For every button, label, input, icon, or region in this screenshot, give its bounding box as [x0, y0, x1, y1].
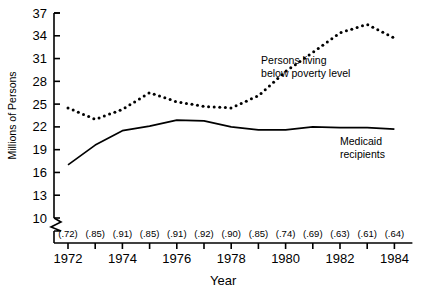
poverty-data-dot — [340, 31, 343, 34]
poverty-data-dot — [87, 115, 90, 118]
poverty-data-dot — [312, 50, 315, 53]
y-axis-tick-label: 13 — [33, 188, 47, 203]
poverty-data-dot — [103, 114, 106, 117]
poverty-data-dot — [138, 97, 141, 100]
x-axis-title: Year — [210, 273, 237, 288]
poverty-data-dot — [92, 117, 95, 120]
x-axis-ratio-label: (.85) — [249, 228, 269, 239]
x-axis-year-label: 1982 — [326, 251, 355, 266]
y-axis-tick-label: 34 — [33, 28, 47, 43]
y-axis-tick-label: 25 — [33, 97, 47, 112]
poverty-data-dot — [196, 104, 199, 107]
x-axis-year-label: 1978 — [217, 251, 246, 266]
poverty-data-dot — [356, 26, 359, 29]
poverty-data-dot — [381, 31, 384, 34]
poverty-data-dot — [321, 44, 324, 47]
y-axis-tick-label: 22 — [33, 119, 47, 134]
poverty-data-dot — [229, 106, 232, 109]
x-axis-ratio-label: (.69) — [303, 228, 323, 239]
poverty-data-dot — [113, 111, 116, 114]
y-axis-tick-label: 19 — [33, 142, 47, 157]
poverty-data-dot — [345, 29, 348, 32]
x-axis-ratio-label: (.91) — [167, 228, 187, 239]
poverty-data-dot — [335, 34, 338, 37]
x-axis-ratio-label: (.74) — [276, 228, 296, 239]
poverty-series-label-line1: Persons living — [261, 54, 327, 66]
x-axis-year-label: 1972 — [54, 251, 83, 266]
poverty-data-dot — [133, 100, 136, 103]
poverty-data-dot — [163, 96, 166, 99]
poverty-data-dot — [268, 84, 271, 87]
x-axis-ratio-label: (.72) — [58, 228, 78, 239]
poverty-data-dot — [128, 103, 131, 106]
poverty-data-dot — [264, 88, 267, 91]
poverty-data-dot — [158, 95, 161, 98]
poverty-data-dot — [361, 24, 364, 27]
poverty-data-dot — [371, 26, 374, 29]
poverty-data-dot — [119, 109, 122, 112]
poverty-data-dot — [72, 109, 75, 112]
poverty-data-dot — [330, 37, 333, 40]
y-axis-tick-label: 31 — [33, 51, 47, 66]
poverty-data-dot — [185, 102, 188, 105]
medicaid-series-label-line2: recipients — [340, 148, 385, 160]
x-axis-ratio-label: (.85) — [85, 228, 105, 239]
poverty-data-dot — [143, 95, 146, 98]
poverty-data-dot — [169, 98, 172, 101]
y-axis-title: Millions of Persons — [6, 71, 18, 159]
x-axis-ratio-label: (.63) — [330, 228, 350, 239]
chart-container: 10131619222528313437Millions of Persons1… — [0, 0, 446, 295]
x-axis-ratio-label: (.61) — [357, 228, 377, 239]
poverty-data-dot — [190, 103, 193, 106]
poverty-data-dot — [250, 97, 253, 100]
poverty-data-dot — [153, 93, 156, 96]
poverty-data-dot — [179, 101, 182, 104]
poverty-data-dot — [218, 106, 221, 109]
poverty-data-dot — [245, 100, 248, 103]
x-axis-ratio-label: (.64) — [385, 228, 405, 239]
y-axis-tick-label: 16 — [33, 165, 47, 180]
poverty-data-dot — [317, 47, 320, 50]
poverty-data-dot — [235, 104, 238, 107]
poverty-data-dot — [326, 40, 329, 43]
x-axis-ratio-label: (.85) — [140, 228, 160, 239]
poverty-data-dot — [147, 92, 150, 95]
poverty-data-dot — [77, 111, 80, 114]
x-axis-year-label: 1976 — [162, 251, 191, 266]
poverty-data-dot — [82, 113, 85, 116]
x-axis-ratio-label: (.92) — [194, 228, 214, 239]
medicaid-series-label-line1: Medicaid — [340, 135, 382, 147]
poverty-data-dot — [202, 105, 205, 108]
poverty-data-dot — [240, 102, 243, 105]
poverty-data-dot — [350, 28, 353, 31]
y-axis-tick-label: 28 — [33, 74, 47, 89]
x-axis-ratio-label: (.91) — [113, 228, 133, 239]
x-axis-year-label: 1984 — [380, 251, 409, 266]
x-axis-year-label: 1980 — [271, 251, 300, 266]
y-axis-tick-label: 37 — [33, 6, 47, 21]
poverty-data-dot — [108, 113, 111, 116]
poverty-data-dot — [207, 105, 210, 108]
poverty-data-dot — [386, 33, 389, 36]
poverty-data-dot — [366, 23, 369, 26]
poverty-data-dot — [391, 36, 394, 39]
poverty-data-dot — [224, 106, 227, 109]
poverty-data-dot — [376, 28, 379, 31]
poverty-data-dot — [98, 116, 101, 119]
poverty-data-dot — [67, 106, 70, 109]
poverty-data-dot — [174, 100, 177, 103]
poverty-medicaid-line-chart: 10131619222528313437Millions of Persons1… — [0, 0, 446, 295]
poverty-data-dot — [255, 95, 258, 98]
poverty-data-dot — [213, 105, 216, 108]
x-axis-year-label: 1974 — [108, 251, 137, 266]
poverty-data-dot — [124, 106, 127, 109]
poverty-data-dot — [272, 81, 275, 84]
x-axis-ratio-label: (.90) — [221, 228, 241, 239]
poverty-series-label-line2: below poverty level — [261, 67, 350, 79]
y-axis-tick-label: 10 — [33, 211, 47, 226]
poverty-data-dot — [260, 92, 263, 95]
